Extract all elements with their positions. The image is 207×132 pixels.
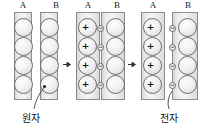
minus-sign: − — [170, 63, 175, 69]
transition-arrow-1 — [63, 60, 72, 69]
minus-sign: − — [170, 82, 175, 88]
plus-sign: + — [144, 57, 161, 74]
positive-ion: + — [78, 75, 97, 94]
induction-diagram: A B A B + + — [0, 0, 207, 132]
plus-sign: + — [79, 76, 96, 93]
atom — [106, 56, 125, 75]
atom — [40, 56, 59, 75]
electron: − — [97, 44, 104, 51]
atom — [14, 18, 33, 37]
positive-ion: + — [78, 18, 97, 37]
electron: − — [97, 25, 104, 32]
minus-sign: − — [170, 44, 175, 50]
minus-sign: − — [98, 25, 103, 31]
atom — [106, 75, 125, 94]
plus-sign: + — [144, 19, 161, 36]
electron: − — [169, 63, 176, 70]
atom — [40, 37, 59, 56]
atom — [178, 75, 197, 94]
electron: − — [97, 63, 104, 70]
plus-sign: + — [79, 38, 96, 55]
callout-electron-label: 전자 — [160, 110, 178, 125]
positive-ion: + — [143, 56, 162, 75]
atom — [14, 56, 33, 75]
positive-ion: + — [78, 56, 97, 75]
plate-label-b3: B — [176, 0, 200, 11]
atom — [178, 18, 197, 37]
positive-ion: + — [143, 18, 162, 37]
plus-sign: + — [79, 19, 96, 36]
positive-ion: + — [78, 37, 97, 56]
minus-sign: − — [98, 44, 103, 50]
minus-sign: − — [170, 25, 175, 31]
plate-label-a2: A — [76, 0, 100, 11]
atom — [106, 18, 125, 37]
electron: − — [169, 44, 176, 51]
callout-electron-line — [150, 90, 176, 112]
plus-sign: + — [79, 57, 96, 74]
minus-sign: − — [98, 82, 103, 88]
plate-b3[interactable] — [172, 12, 198, 100]
callout-atom-line — [30, 85, 52, 111]
atom — [14, 37, 33, 56]
electron: − — [97, 82, 104, 89]
electron: − — [169, 25, 176, 32]
atom — [178, 56, 197, 75]
minus-sign: − — [98, 63, 103, 69]
plate-label-b2: B — [105, 0, 129, 11]
electron: − — [169, 82, 176, 89]
plate-label-b1: B — [44, 0, 68, 11]
plate-a3[interactable]: + + + + — [141, 12, 165, 100]
callout-atom-label: 원자 — [22, 110, 40, 125]
plus-sign: + — [144, 38, 161, 55]
transition-arrow-2 — [128, 60, 137, 69]
plate-label-a3: A — [141, 0, 165, 11]
plate-b2[interactable] — [101, 12, 125, 100]
atom — [178, 37, 197, 56]
atom — [106, 37, 125, 56]
positive-ion: + — [143, 37, 162, 56]
plate-label-a1: A — [11, 0, 35, 11]
atom — [40, 18, 59, 37]
